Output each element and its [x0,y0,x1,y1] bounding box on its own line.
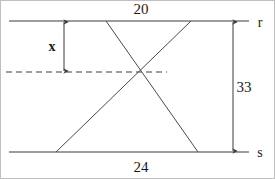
top-measure-label: 20 [134,2,149,17]
transversal-line-b [56,21,191,152]
line-s-label: s [257,146,262,160]
figure-canvas [1,1,275,179]
unknown-measure-label: x [49,40,56,54]
bottom-measure-label: 24 [134,160,149,175]
transversal-line-a [106,21,198,152]
geometry-figure: 20 24 33 x r s [0,0,275,179]
line-r-label: r [258,16,263,30]
right-measure-label: 33 [237,80,252,95]
